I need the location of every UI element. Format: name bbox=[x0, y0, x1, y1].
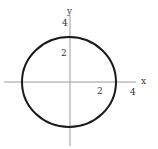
y-axis-label: y bbox=[66, 6, 73, 16]
y-tick-2: 2 bbox=[61, 48, 67, 58]
x-tick-2: 2 bbox=[97, 86, 103, 96]
x-tick-4: 4 bbox=[130, 87, 136, 97]
circle-plot: x y 2 4 2 4 bbox=[0, 0, 158, 149]
x-axis-label: x bbox=[141, 76, 146, 86]
y-tick-4: 4 bbox=[62, 18, 68, 28]
